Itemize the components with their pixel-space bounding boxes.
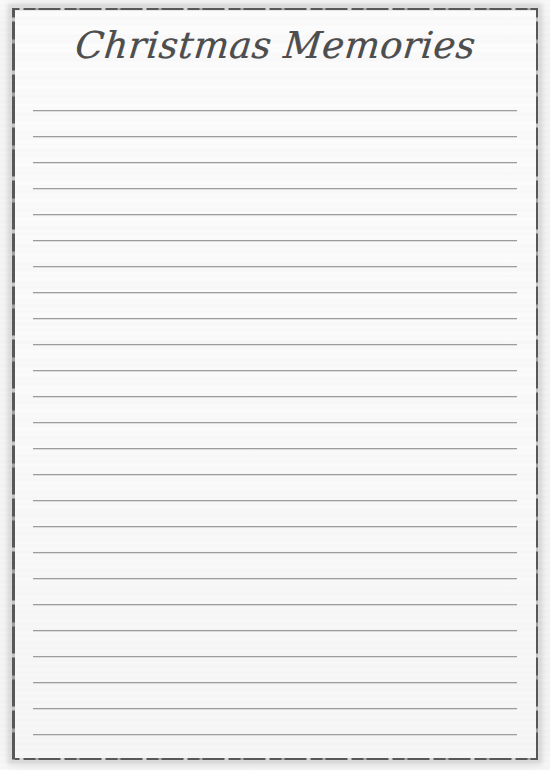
ruled-line xyxy=(33,370,517,371)
ruled-line xyxy=(33,240,517,241)
ruled-line xyxy=(33,500,517,501)
ruled-line xyxy=(33,318,517,319)
ruled-line xyxy=(33,266,517,267)
ruled-line xyxy=(33,708,517,709)
ruled-line xyxy=(33,604,517,605)
stationery-page: Christmas Memories xyxy=(0,0,550,770)
ruled-line xyxy=(33,214,517,215)
ruled-line xyxy=(33,422,517,423)
ruled-lines-group xyxy=(0,0,550,770)
ruled-line xyxy=(33,396,517,397)
ruled-line xyxy=(33,344,517,345)
ruled-line xyxy=(33,136,517,137)
ruled-line xyxy=(33,656,517,657)
ruled-line xyxy=(33,162,517,163)
ruled-line xyxy=(33,292,517,293)
ruled-line xyxy=(33,188,517,189)
ruled-line xyxy=(33,630,517,631)
ruled-line xyxy=(33,578,517,579)
ruled-line xyxy=(33,474,517,475)
ruled-line xyxy=(33,734,517,735)
ruled-line xyxy=(33,110,517,111)
ruled-line xyxy=(33,448,517,449)
ruled-line xyxy=(33,552,517,553)
ruled-line xyxy=(33,682,517,683)
ruled-line xyxy=(33,526,517,527)
